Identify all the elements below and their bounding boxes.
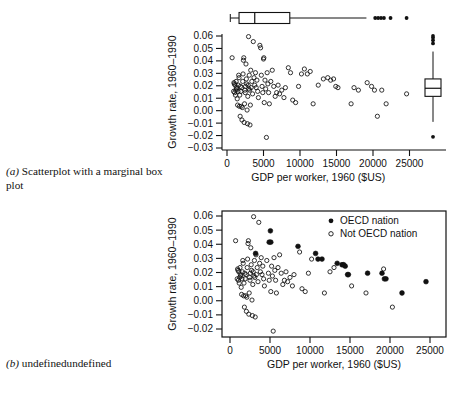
data-point-not-oecd [245,265,249,269]
panel-b-y-ticklabel: 0.00 [194,295,214,306]
data-point-not-oecd [242,305,246,309]
data-point [244,62,248,66]
data-point-not-oecd [244,309,248,313]
data-point-oecd [320,257,325,262]
data-point-not-oecd [249,246,253,250]
data-point-not-oecd [246,239,250,243]
data-point [270,68,274,72]
data-point-not-oecd [303,289,307,293]
data-point-not-oecd [239,285,243,289]
legend-label: Not OECD nation [340,228,417,239]
data-point-oecd [424,279,429,284]
data-point-oecd [400,291,405,296]
data-point [316,83,320,87]
data-point-not-oecd [332,265,336,269]
data-point-not-oecd [246,257,250,261]
data-point [302,67,306,71]
data-point-not-oecd [322,291,326,295]
panel-a-y-axis-label: Growth rate, 1960–1990 [166,35,178,148]
data-point [380,88,384,92]
data-point-oecd [296,244,301,249]
panel-a-points [230,35,409,140]
data-point [352,86,356,90]
panel-a-y-ticklabel: −0.03 [188,142,214,153]
data-point [247,73,251,77]
panel-b: 0.060.050.040.030.020.010.00−0.01−0.0205… [166,210,446,370]
data-point [256,89,260,93]
data-point-not-oecd [310,257,314,261]
data-point [259,73,263,77]
data-point-not-oecd [248,278,252,282]
data-point [267,91,271,95]
data-point [242,102,246,106]
data-point [276,83,280,87]
data-point-oecd [346,272,351,277]
data-point-oecd [268,240,273,245]
panel-b-x-ticklabel: 20000 [376,345,404,356]
data-point-not-oecd [269,289,273,293]
data-point-not-oecd [252,258,256,262]
data-point [372,88,376,92]
data-point [288,71,292,75]
data-point-not-oecd [270,264,274,268]
data-point [250,92,254,96]
data-point [264,87,268,91]
data-point-not-oecd [257,220,261,224]
data-point-not-oecd [292,273,296,277]
panel-a-y-ticklabel: 0.03 [194,68,214,79]
data-point-not-oecd [390,305,394,309]
data-point-not-oecd [306,271,310,275]
boxplot-x-outlier [389,16,393,20]
data-point-oecd [335,261,340,266]
data-point [245,108,249,112]
data-point [244,77,248,81]
data-point-not-oecd [250,298,254,302]
panel-a-x-ticklabel: 10000 [286,158,314,169]
data-point [286,66,290,70]
data-point-not-oecd [271,329,275,333]
figure-container: 0.060.050.040.030.020.010.00−0.01−0.02−0… [0,0,450,397]
data-point [246,35,250,39]
data-point-oecd [253,251,258,256]
data-point-not-oecd [290,284,294,288]
data-point-not-oecd [247,291,251,295]
data-point [296,84,300,88]
data-point [308,69,312,73]
data-point-not-oecd [252,215,256,219]
data-point-not-oecd [262,277,266,281]
data-point [321,77,325,81]
data-point-not-oecd [382,267,386,271]
data-point [255,78,259,82]
panel-b-y-ticklabel: 0.01 [194,281,214,292]
data-point-oecd [380,271,385,276]
boxplot-x-box [239,13,290,24]
data-point-oecd [313,251,318,256]
figure-svg: 0.060.050.040.030.020.010.00−0.01−0.02−0… [0,0,450,397]
data-point [369,84,373,88]
data-point-not-oecd [272,256,276,260]
boxplot-y-box [425,79,441,96]
data-point [230,56,234,60]
panel-a-y-ticklabel: −0.02 [188,130,214,141]
data-point-not-oecd [255,265,259,269]
boxplot-x-outlier [382,16,386,20]
data-point [356,88,360,92]
data-point [262,100,266,104]
data-point [267,102,271,106]
panel-a-x-ticklabel: 15000 [323,158,351,169]
panel-a-y-ticklabel: 0.06 [194,30,214,41]
panel-a-y-ticklabel: 0.01 [194,93,214,104]
caption-a-text: Scatterplot with a marginal box plot [6,165,163,191]
panel-b-y-ticklabel: 0.06 [194,210,214,221]
boxplot-x-outlier [405,16,409,20]
panel-b-y-axis-label: Growth rate, 1960–1990 [166,217,178,330]
panel-a: 0.060.050.040.030.020.010.00−0.01−0.02−0… [166,13,446,184]
data-point [246,94,250,98]
data-point-not-oecd [281,282,285,286]
data-point [241,72,245,76]
data-point-not-oecd [284,270,288,274]
panel-b-y-ticklabel: 0.03 [194,253,214,264]
panel-b-x-ticklabel: 10000 [296,345,324,356]
panel-b-x-ticklabel: 5000 [259,345,282,356]
data-point-not-oecd [237,281,241,285]
